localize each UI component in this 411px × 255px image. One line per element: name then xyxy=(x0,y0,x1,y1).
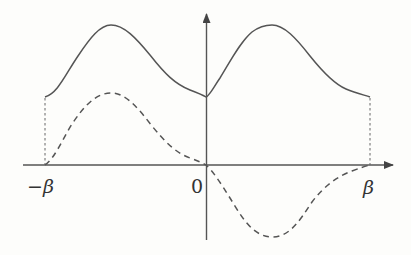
solid-curve xyxy=(45,25,370,97)
origin-label: 0 xyxy=(191,177,203,196)
diagram-canvas xyxy=(0,0,411,255)
pos-beta-label: β xyxy=(363,178,374,197)
neg-beta-label: −β xyxy=(27,177,54,196)
